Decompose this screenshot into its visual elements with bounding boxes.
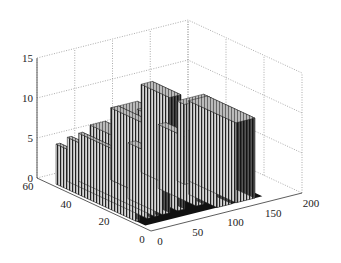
x-tick-label: 100: [227, 216, 244, 228]
z-tick-label: 5: [28, 132, 34, 144]
surface-blocks: [56, 81, 255, 221]
y-tick-label: 20: [99, 215, 111, 227]
surface-plot: 0510150204060050100150200: [0, 0, 341, 263]
x-tick-label: 0: [157, 235, 163, 247]
y-tick-label: 0: [139, 233, 145, 245]
x-tick-label: 150: [265, 207, 282, 219]
y-tick-label: 40: [61, 198, 73, 210]
z-tick-label: 10: [22, 92, 34, 104]
z-tick-label: 15: [22, 52, 34, 64]
x-tick-label: 200: [303, 197, 320, 209]
x-tick-label: 50: [192, 226, 204, 238]
y-tick-label: 60: [23, 180, 35, 192]
